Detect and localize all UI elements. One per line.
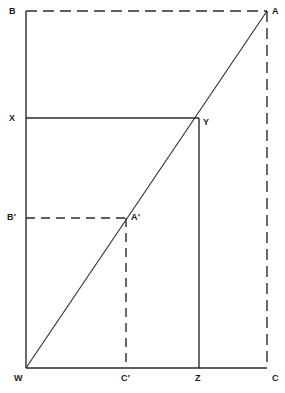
geometry-canvas	[0, 0, 285, 393]
diagonal-WA-line	[26, 11, 267, 368]
vertex-label-B: B	[9, 7, 16, 16]
vertex-label-A-prime: A′	[131, 213, 140, 222]
vertex-label-Z: Z	[195, 374, 201, 383]
vertex-label-A: A	[272, 7, 279, 16]
vertex-label-B-prime: B′	[7, 213, 16, 222]
vertex-label-C-prime: C′	[121, 374, 130, 383]
geometry-diagram: B A X Y B′ A′ W C′ Z C	[0, 0, 285, 393]
vertex-label-W: W	[14, 374, 23, 383]
vertex-label-X: X	[9, 114, 15, 123]
vertex-label-C: C	[272, 374, 279, 383]
vertex-label-Y: Y	[203, 118, 209, 127]
